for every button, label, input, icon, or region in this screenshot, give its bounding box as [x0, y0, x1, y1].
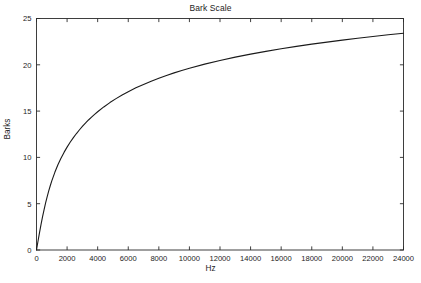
- y-tick-label: 25: [23, 14, 31, 23]
- x-tick-label: 20000: [332, 254, 353, 263]
- x-tick-label: 22000: [362, 254, 383, 263]
- axes-frame: [37, 19, 404, 251]
- x-tick-label: 2000: [59, 254, 76, 263]
- x-axis-label: Hz: [0, 264, 421, 274]
- y-tick-label: 10: [23, 153, 31, 162]
- x-tick-label: 8000: [150, 254, 167, 263]
- x-tick-label: 24000: [393, 254, 414, 263]
- x-tick-label: 10000: [179, 254, 200, 263]
- x-tick-label: 12000: [209, 254, 230, 263]
- bark-scale-curve: [37, 33, 404, 250]
- plot-area: 0200040006000800010000120001400016000180…: [0, 0, 421, 283]
- y-axis-ticks: [37, 19, 404, 251]
- y-axis-label: Barks: [3, 109, 13, 149]
- x-axis-ticks: [37, 19, 404, 251]
- x-tick-label: 4000: [89, 254, 106, 263]
- y-tick-label: 15: [23, 107, 31, 116]
- x-axis-tick-labels: 0200040006000800010000120001400016000180…: [34, 254, 414, 263]
- y-tick-label: 5: [27, 200, 31, 209]
- y-tick-label: 0: [27, 246, 31, 255]
- figure-canvas: Bark Scale 02000400060008000100001200014…: [0, 0, 421, 283]
- x-tick-label: 16000: [271, 254, 292, 263]
- plot-box-border: [37, 19, 404, 251]
- x-tick-label: 14000: [240, 254, 261, 263]
- x-tick-label: 6000: [120, 254, 137, 263]
- y-tick-label: 20: [23, 61, 31, 70]
- y-axis-tick-labels: 0510152025: [23, 14, 31, 255]
- x-tick-label: 0: [34, 254, 38, 263]
- x-tick-label: 18000: [301, 254, 322, 263]
